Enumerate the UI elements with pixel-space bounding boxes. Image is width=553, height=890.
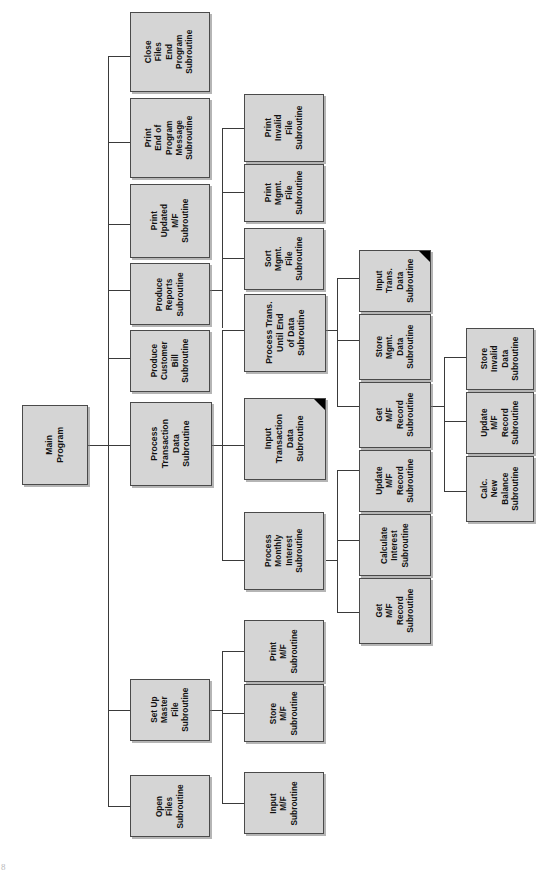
module-print-invalid-file[interactable]: Print Invalid File Subroutine	[244, 94, 324, 162]
module-label: Main Program	[44, 427, 66, 463]
connector-to-get-mf-2	[337, 612, 359, 613]
module-calculate-interest[interactable]: Calculate Interest Subroutine	[359, 514, 431, 576]
module-print-mgmt-file[interactable]: Print Mgmt. File Subroutine	[244, 164, 324, 222]
module-label: Set Up Master File Subroutine	[149, 688, 190, 732]
module-label: Process Trans. Until End of Data Subrout…	[263, 302, 306, 365]
module-produce-reports[interactable]: Produce Reports Subroutine	[130, 263, 210, 325]
module-get-mf-record-1[interactable]: Get M/F Record Subroutine	[359, 382, 431, 448]
connector-to-produce-bill	[108, 358, 130, 359]
module-label: Produce Reports Subroutine	[155, 272, 186, 316]
module-label: Print Mgmt. File Subroutine	[263, 171, 304, 215]
module-label: Produce Customer Bill Subroutine	[149, 339, 190, 383]
connector-to-update-mf-2	[444, 421, 466, 422]
connector-to-open-files	[108, 806, 130, 807]
module-sort-mgmt-file[interactable]: Sort Mgmt. File Subroutine	[244, 228, 324, 290]
connector-to-sort-mgmt	[222, 258, 244, 259]
connector-setup-spine	[222, 651, 223, 803]
module-process-monthly-interest[interactable]: Process Monthly Interest Subroutine	[244, 512, 324, 590]
module-label: Open Files Subroutine	[155, 784, 186, 828]
module-label: Store Invalid Data Subroutine	[479, 337, 520, 381]
connector-to-store-mgmt	[337, 340, 359, 341]
module-process-transaction-data[interactable]: Process Transaction Data Subroutine	[130, 402, 212, 486]
module-set-up-master-file[interactable]: Set Up Master File Subroutine	[130, 679, 210, 741]
module-print-updated-mf[interactable]: Print Updated M/F Subroutine	[130, 184, 210, 258]
module-label: Close Files End Program Subroutine	[144, 30, 195, 74]
connector-to-update-mf-1	[337, 470, 359, 471]
page-mark: 8	[1, 862, 6, 872]
connector-to-proc-monthly	[222, 560, 244, 561]
module-print-end-of-program-message[interactable]: Print End of Program Message Subroutine	[130, 98, 210, 178]
module-label: Process Transaction Data Subroutine	[149, 419, 192, 468]
module-get-mf-record-2[interactable]: Get M/F Record Subroutine	[359, 578, 431, 644]
connector-to-input-mf	[222, 803, 244, 804]
module-print-mf[interactable]: Print M/F Subroutine	[244, 620, 324, 682]
module-update-mf-record-2[interactable]: Update M/F Record Subroutine	[466, 392, 534, 454]
connector-to-store-mf	[222, 713, 244, 714]
connector-monthly-spine	[337, 470, 338, 612]
connector-to-calc-interest	[337, 540, 359, 541]
module-process-trans-until-end-of-data[interactable]: Process Trans. Until End of Data Subrout…	[244, 294, 326, 372]
module-main-program[interactable]: Main Program	[22, 405, 88, 485]
connector-main-spine	[108, 56, 109, 806]
connector-to-close-files	[108, 56, 130, 57]
module-calc-new-balance[interactable]: Calc. New Balance Subroutine	[466, 456, 534, 522]
module-store-mgmt-data[interactable]: Store Mgmt. Data Subroutine	[359, 314, 431, 380]
connector-level4-spine	[444, 357, 445, 491]
connector-to-print-invalid	[222, 128, 244, 129]
connector-to-print-mgmt	[222, 192, 244, 193]
connector-produce-reports-out	[210, 290, 222, 291]
connector-to-get-mf-1	[337, 406, 359, 407]
module-label: Process Monthly Interest Subroutine	[263, 529, 304, 573]
module-label: Store M/F Subroutine	[269, 691, 300, 735]
module-label: Input M/F Subroutine	[269, 781, 300, 825]
module-label: Input Trans. Data Subroutine	[374, 259, 415, 303]
connector-reports-spine	[222, 128, 223, 328]
connector-main-out	[88, 445, 108, 446]
module-label: Print End of Program Message Subroutine	[144, 116, 195, 160]
connector-process-trans-out	[212, 445, 222, 446]
module-input-mf[interactable]: Input M/F Subroutine	[244, 772, 324, 834]
reuse-marker-icon	[419, 251, 430, 262]
connector-to-process-trans	[108, 445, 130, 446]
module-label: Get M/F Record Subroutine	[374, 393, 415, 437]
module-label: Update M/F Record Subroutine	[479, 401, 520, 445]
module-label: Print Invalid File Subroutine	[263, 106, 304, 150]
connector-get-mf-out	[431, 406, 444, 407]
module-input-transaction-data[interactable]: Input Transaction Data Subroutine	[244, 398, 326, 480]
module-store-mf[interactable]: Store M/F Subroutine	[244, 684, 324, 742]
module-open-files[interactable]: Open Files Subroutine	[130, 775, 210, 837]
reuse-marker-icon	[314, 399, 325, 410]
connector-to-calc-balance	[444, 491, 466, 492]
module-label: Sort Mgmt. File Subroutine	[263, 237, 304, 281]
module-label: Update M/F Record Subroutine	[374, 459, 415, 503]
connector-to-store-invalid	[444, 357, 466, 358]
connector-eod-spine	[337, 278, 338, 406]
connector-to-setup-mf	[108, 710, 130, 711]
connector-monthly-out	[326, 560, 337, 561]
connector-setup-mf-out	[210, 710, 222, 711]
connector-to-produce-reports	[108, 290, 130, 291]
connector-to-input-trans-d	[337, 278, 359, 279]
module-label: Input Transaction Data Subroutine	[263, 414, 306, 463]
module-label: Calculate Interest Subroutine	[380, 523, 411, 567]
module-close-files[interactable]: Close Files End Program Subroutine	[130, 12, 210, 92]
connector-to-input-trans	[222, 445, 244, 446]
module-update-mf-record-1[interactable]: Update M/F Record Subroutine	[359, 450, 431, 512]
module-label: Get M/F Record Subroutine	[374, 589, 415, 633]
module-label: Print Updated M/F Subroutine	[149, 199, 190, 243]
connector-to-print-mf	[222, 651, 244, 652]
module-input-trans-data[interactable]: Input Trans. Data Subroutine	[359, 250, 431, 312]
module-store-invalid-data[interactable]: Store Invalid Data Subroutine	[466, 328, 534, 390]
structure-chart-canvas: Main Program Close Files End Program Sub…	[0, 0, 553, 890]
connector-to-print-upd-mf	[108, 224, 130, 225]
module-label: Store Mgmt. Data Subroutine	[374, 325, 415, 369]
module-label: Print M/F Subroutine	[269, 629, 300, 673]
connector-to-proc-until-eod	[222, 330, 244, 331]
module-label: Calc. New Balance Subroutine	[479, 467, 520, 511]
connector-until-eod-out	[326, 330, 337, 331]
module-produce-customer-bill[interactable]: Produce Customer Bill Subroutine	[130, 330, 210, 392]
connector-to-print-eop	[108, 142, 130, 143]
